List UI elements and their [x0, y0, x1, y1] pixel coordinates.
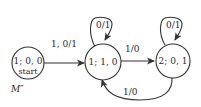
edge-label-s3-s2: 1/0 — [123, 87, 138, 97]
machine-label: M″ — [10, 84, 24, 94]
state-s2: 1; 1, 0 — [85, 44, 121, 80]
state-s3-label: 2; 0, 1 — [159, 56, 188, 66]
edge-label-s3-self: 0/1 — [166, 20, 180, 30]
state-s1-sublabel: start — [18, 67, 38, 76]
state-diagram: 1, 0/1 0/1 1/0 0/1 1/0 1; 0, 0 start 1; … — [0, 0, 201, 107]
edge-label-s2-self: 0/1 — [96, 20, 110, 30]
state-s1-label: 1; 0, 0 — [14, 56, 43, 66]
state-s2-label: 1; 1, 0 — [89, 57, 118, 67]
state-s3: 2; 0, 1 — [156, 44, 190, 78]
edge-label-s1-s2: 1, 0/1 — [51, 39, 77, 49]
state-s1: 1; 0, 0 start — [12, 47, 44, 79]
edge-label-s2-s3: 1/0 — [125, 44, 140, 54]
